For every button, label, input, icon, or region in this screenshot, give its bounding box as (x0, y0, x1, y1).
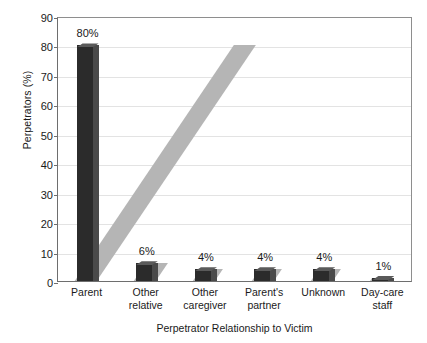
plot-area: 0102030405060708090 80%6%4%4%4%1% (57, 17, 412, 282)
bar-slot: 4% (295, 18, 354, 281)
x-axis-title: Perpetrator Relationship to Victim (57, 322, 412, 334)
bar-value-label: 1% (375, 260, 391, 272)
bar-side-face (211, 269, 217, 281)
bar-slot: 4% (236, 18, 295, 281)
bar-value-label: 80% (77, 27, 99, 39)
bar-value-label: 4% (198, 251, 214, 263)
y-axis-tick-label: 90 (7, 12, 58, 24)
bar-front-face[interactable] (136, 263, 152, 281)
y-axis-tick-label: 60 (7, 100, 58, 112)
bar-slot: 80% (58, 18, 117, 281)
y-axis-tick-label: 40 (7, 159, 58, 171)
y-axis-tick-label: 50 (7, 130, 58, 142)
bar-front-face[interactable] (77, 45, 93, 281)
x-axis-category-label: Unknown (294, 286, 353, 299)
bar-value-label: 4% (257, 251, 273, 263)
bar-side-face (270, 269, 276, 281)
x-axis-category-label: Parent (57, 286, 116, 299)
x-axis-category-label: Day-care staff (353, 286, 412, 311)
bar-side-face (93, 45, 99, 281)
bar-side-face (152, 263, 158, 281)
y-axis-tick-label: 30 (7, 189, 58, 201)
y-axis-tick-label: 70 (7, 71, 58, 83)
bar-series: 80%6%4%4%4%1% (58, 18, 411, 281)
x-axis-category-label: Parent's partner (235, 286, 294, 311)
bar-slot: 1% (354, 18, 413, 281)
bar-slot: 4% (176, 18, 235, 281)
x-axis-category-labels: ParentOther relativeOther caregiverParen… (57, 286, 412, 322)
y-axis-tick-label: 20 (7, 218, 58, 230)
y-axis-tick-label: 10 (7, 248, 58, 260)
bar-value-label: 4% (316, 251, 332, 263)
bar-side-face (329, 269, 335, 281)
bar-chart: Perpetrators (%) 0102030405060708090 80%… (0, 0, 427, 343)
x-axis-category-label: Other caregiver (175, 286, 234, 311)
bar-value-label: 6% (139, 245, 155, 257)
x-axis-category-label: Other relative (116, 286, 175, 311)
y-axis-tick-label: 0 (7, 277, 58, 289)
bar-slot: 6% (117, 18, 176, 281)
y-axis-tick-label: 80 (7, 41, 58, 53)
